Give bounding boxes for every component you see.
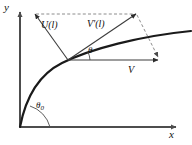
- vector-v-prime-label: V'(l): [87, 19, 105, 29]
- theta0-angle-label: θ0: [36, 101, 44, 110]
- theta0-subscript: 0: [40, 104, 44, 112]
- vector-u-label: U(l): [41, 20, 58, 30]
- figure-container: y x U(l) V'(l) V θ θ0: [0, 0, 192, 145]
- x-axis-label: x: [169, 129, 174, 140]
- vector-v-label: V: [128, 65, 134, 75]
- trajectory-curve: [20, 31, 191, 127]
- y-axis-label: y: [4, 2, 9, 13]
- theta-angle-label: θ: [88, 46, 92, 55]
